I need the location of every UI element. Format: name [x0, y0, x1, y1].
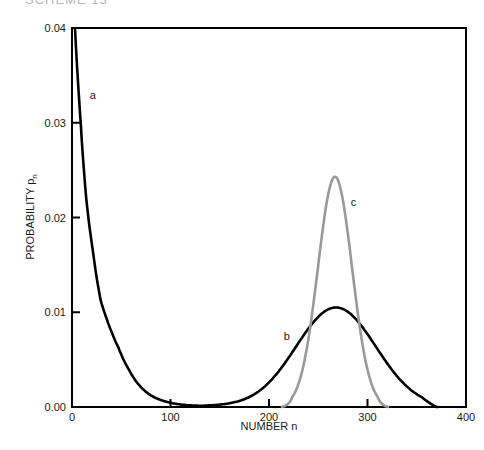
plot-area-border [72, 28, 466, 407]
x-tick-label: 100 [161, 411, 179, 423]
x-tick-label: 300 [358, 411, 376, 423]
y-tick-label: 0.00 [45, 401, 66, 413]
curve-c [281, 177, 389, 407]
x-tick-label: 400 [457, 411, 475, 423]
y-tick-label: 0.03 [45, 117, 66, 129]
y-axis-label: PROBABILITY pn [24, 174, 39, 260]
curve-label-b: b [284, 330, 290, 342]
curves [75, 28, 438, 407]
curve-labels: abc [90, 89, 357, 342]
y-tick-label: 0.01 [45, 306, 66, 318]
axis-ticks: 01002003004000.000.010.020.030.04 [45, 22, 476, 423]
curve-label-a: a [90, 89, 97, 101]
curve-a-b [75, 28, 438, 407]
y-tick-label: 0.02 [45, 212, 66, 224]
x-axis-label: NUMBER n [241, 420, 298, 432]
plot-frame [72, 28, 466, 407]
y-tick-label: 0.04 [45, 22, 66, 34]
x-tick-label: 0 [69, 411, 75, 423]
curve-label-c: c [351, 196, 357, 208]
chart: 01002003004000.000.010.020.030.04 abc NU… [0, 0, 484, 450]
